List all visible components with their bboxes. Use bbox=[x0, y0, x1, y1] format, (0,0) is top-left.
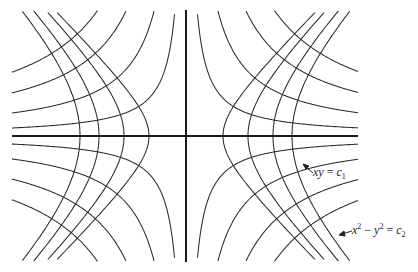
label-xy-c1: xy = c1 bbox=[313, 166, 346, 181]
hyperbola-xy bbox=[12, 11, 126, 93]
hyperbola-xy bbox=[198, 144, 359, 258]
hyperbola-xy bbox=[12, 179, 126, 261]
label-x2-minus-y2-c2: x2 − y2 = c2 bbox=[352, 223, 406, 239]
hyperbola-xy bbox=[198, 14, 359, 128]
